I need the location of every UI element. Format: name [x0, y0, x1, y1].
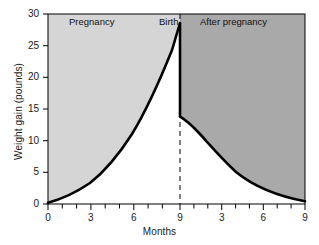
x-axis-ticks [48, 204, 305, 210]
y-axis-title: Weight gain (pounds) [13, 42, 24, 182]
chart-plot-area [0, 0, 319, 245]
annotation-birth: Birth [159, 16, 179, 27]
x-tick-label-18: 9 [295, 212, 315, 223]
x-tick-label-12: 3 [212, 212, 232, 223]
weight-gain-chart-figure: Pregnancy Birth After pregnancy 0 5 10 1… [0, 0, 319, 245]
y-tick-label-30: 30 [19, 8, 39, 19]
annotation-pregnancy: Pregnancy [69, 16, 114, 27]
annotation-after-pregnancy: After pregnancy [200, 16, 267, 27]
x-axis-title: Months [0, 226, 319, 237]
x-tick-label-15: 6 [253, 212, 273, 223]
y-axis-ticks [43, 14, 48, 204]
x-tick-label-6: 6 [124, 212, 144, 223]
x-tick-label-0: 0 [38, 212, 58, 223]
y-tick-label-0: 0 [19, 198, 39, 209]
x-tick-label-9: 9 [170, 212, 190, 223]
x-tick-label-3: 3 [81, 212, 101, 223]
